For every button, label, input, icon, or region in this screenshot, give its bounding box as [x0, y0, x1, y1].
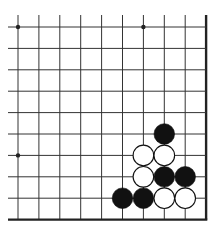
white-stone[interactable] — [133, 167, 154, 188]
board-grid — [8, 15, 207, 220]
go-board[interactable] — [0, 0, 212, 229]
black-stone[interactable] — [112, 188, 133, 209]
star-point-icon — [16, 25, 20, 29]
star-point-icon — [141, 25, 145, 29]
black-stone[interactable] — [154, 124, 175, 145]
white-stone[interactable] — [154, 188, 175, 209]
white-stone[interactable] — [154, 145, 175, 166]
white-stone[interactable] — [133, 145, 154, 166]
star-point-icon — [16, 153, 20, 157]
black-stone[interactable] — [154, 167, 175, 188]
black-stone[interactable] — [175, 167, 196, 188]
stones-layer — [112, 124, 195, 209]
black-stone[interactable] — [133, 188, 154, 209]
white-stone[interactable] — [175, 188, 196, 209]
